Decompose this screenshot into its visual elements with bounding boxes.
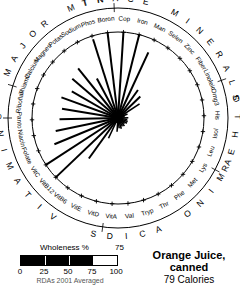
tick-panto	[30, 118, 34, 122]
label-thiamin: Thiamin	[17, 72, 32, 96]
svg-text:M: M	[214, 172, 226, 183]
svg-text:I: I	[0, 147, 9, 152]
bar-tick-label: 100	[109, 267, 122, 276]
tick-vita	[110, 202, 114, 206]
svg-text:A: A	[12, 176, 24, 186]
label-man: Man	[153, 22, 168, 34]
legend: Wholeness % 75	[14, 243, 132, 255]
calories-text: 79 Calories	[140, 273, 238, 286]
bar-tick-labels: 0255075100	[14, 267, 132, 277]
tick-thr	[156, 192, 160, 196]
label-vitd: VitD	[87, 208, 101, 218]
wholeness-bar-fill	[21, 256, 93, 265]
spoke-vitb12	[56, 118, 118, 177]
svg-text:M: M	[66, 2, 77, 14]
label-omg3: Omg3	[209, 88, 221, 107]
label-zinc: Zinc	[183, 42, 197, 56]
svg-text:T: T	[81, 0, 90, 9]
svg-text:V: V	[48, 211, 59, 223]
label-vitc: VitC	[29, 165, 42, 179]
tick-boron	[105, 30, 109, 34]
tick-lys	[190, 159, 194, 163]
svg-text:S: S	[0, 113, 3, 119]
svg-text:E: E	[142, 0, 150, 7]
svg-text:A: A	[112, 0, 118, 3]
tick-sodium	[75, 40, 79, 44]
tick-man	[152, 38, 156, 42]
svg-text:A: A	[154, 223, 163, 234]
label-lys: Lys	[197, 162, 209, 174]
label-phe: Phe	[172, 188, 186, 201]
bar-tick-label: 0	[18, 267, 22, 276]
nutrition-wholeness-chart: CalciumMagnesPotasSodiumPhosBoronCopIron…	[0, 0, 240, 297]
tick-linoleic	[195, 83, 199, 87]
svg-text:I: I	[35, 202, 43, 211]
svg-text:A: A	[8, 53, 20, 63]
label-met: Met	[186, 176, 198, 189]
bar-separator	[93, 256, 94, 265]
label-phos: Phos	[80, 17, 96, 28]
label-tryp: Tryp	[140, 206, 155, 218]
wholeness-value: 75	[115, 243, 124, 252]
tick-calcium	[41, 73, 45, 77]
svg-text:N: N	[0, 130, 6, 137]
tick-omg3	[200, 98, 204, 102]
svg-text:C: C	[138, 228, 146, 239]
svg-text:R: R	[96, 0, 104, 5]
svg-text:S: S	[90, 228, 98, 239]
svg-text:H: H	[230, 131, 240, 139]
label-folate: Folate	[21, 146, 34, 166]
tick-his	[202, 114, 206, 118]
svg-text:R: R	[39, 18, 50, 30]
label-thr: Thr	[158, 199, 171, 210]
tick-thiamin	[35, 86, 39, 90]
svg-text:A: A	[221, 63, 233, 73]
tick-phos	[90, 34, 94, 38]
label-cop: Cop	[118, 15, 131, 24]
svg-text:J: J	[17, 41, 28, 50]
food-title: Orange Juice, canned 79 Calories	[140, 249, 238, 286]
label-vite: VitE	[70, 201, 83, 212]
label-isol: Isol	[211, 128, 219, 139]
tick-cop	[121, 30, 125, 34]
food-name-line2: canned	[140, 261, 238, 273]
bar-separator	[69, 256, 70, 265]
tick-vite	[79, 194, 83, 198]
svg-text:I: I	[207, 187, 216, 195]
tick-niacin	[32, 133, 36, 137]
wholeness-label: Wholeness %	[40, 243, 89, 252]
label-his: His	[214, 111, 221, 120]
tick-tryp	[141, 198, 145, 202]
svg-text:C: C	[127, 0, 134, 4]
svg-text:M: M	[1, 67, 13, 77]
tick-leu	[197, 145, 201, 149]
svg-text:O: O	[231, 95, 240, 104]
spoke-boron	[108, 33, 118, 118]
svg-text:O: O	[182, 208, 194, 220]
label-vita: VitA	[105, 212, 118, 220]
svg-text:M: M	[169, 6, 180, 18]
label-niacin: Niacin	[17, 129, 28, 148]
svg-text:D: D	[106, 231, 113, 240]
tick-iron	[137, 32, 141, 36]
svg-text:N: N	[194, 25, 205, 37]
bar-tick-label: 50	[64, 267, 73, 276]
tick-val	[126, 201, 130, 205]
bar-separator	[45, 256, 46, 265]
label-sodium: Sodium	[60, 22, 82, 38]
rda-footnote: RDAs 2001 Averaged	[14, 277, 126, 284]
radar-plot: CalciumMagnesPotasSodiumPhosBoronCopIron…	[0, 0, 240, 240]
label-boron: Boron	[97, 14, 115, 23]
svg-text:T: T	[233, 114, 240, 120]
svg-text:T: T	[22, 189, 34, 200]
svg-text:I: I	[125, 231, 128, 240]
label-vitb6: VitB6	[52, 190, 69, 205]
food-name-line1: Orange Juice,	[140, 249, 238, 261]
tick-isol	[201, 129, 205, 133]
svg-text:L: L	[227, 79, 238, 87]
label-vitb12: VitB12	[38, 177, 56, 196]
tick-riboflav	[31, 102, 35, 106]
label-val: Val	[125, 212, 135, 220]
label-selen: Selen	[167, 29, 185, 44]
svg-text:I: I	[184, 16, 192, 26]
